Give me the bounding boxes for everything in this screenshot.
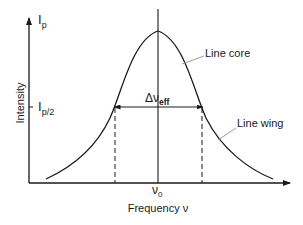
- peak-intensity-label: Ip: [38, 12, 47, 30]
- effective-width-label: Δνeff: [145, 91, 170, 107]
- line-profile-diagram: Ip Ip/2 Intensity Δνeff Line core Line w…: [0, 0, 303, 225]
- x-axis-title: Frequency ν: [128, 202, 189, 214]
- wing-leader-line: [218, 128, 236, 140]
- core-leader-line: [182, 56, 204, 64]
- half-intensity-label: Ip/2: [38, 99, 54, 117]
- line-wing-label: Line wing: [237, 117, 283, 129]
- y-axis-title: Intensity: [14, 82, 26, 123]
- line-core-label: Line core: [205, 47, 250, 59]
- center-frequency-label: ν0: [152, 183, 163, 199]
